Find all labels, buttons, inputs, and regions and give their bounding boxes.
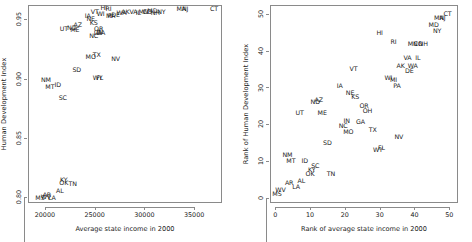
data-point-label: MT [45, 84, 54, 90]
data-point-label: MT [286, 158, 295, 164]
data-point-label: AL [56, 187, 64, 193]
data-point-label: SD [72, 67, 81, 73]
y-axis-label-right: Rank of Human Development Index [242, 5, 250, 203]
y-tick-mark [24, 19, 27, 20]
data-point-label: KS [351, 94, 359, 100]
data-point-label: FL [96, 75, 103, 81]
x-axis-label-left: Average state income in 2000 [28, 225, 222, 233]
data-point-label: TX [93, 52, 101, 58]
panel-rank-vs-rank: Rank of Human Development Index Rank of … [236, 0, 472, 242]
data-point-label: OK [306, 171, 315, 177]
x-axis-line [45, 207, 194, 208]
data-point-label: VT [350, 66, 358, 72]
data-point-label: ID [302, 158, 309, 164]
data-point-label: TN [327, 171, 335, 177]
data-point-label: LA [292, 183, 300, 189]
data-point-label: MA [176, 6, 186, 12]
y-tick-mark [266, 87, 269, 88]
plot-frame-left [28, 5, 222, 203]
x-tick-label: 25000 [75, 211, 115, 219]
x-axis-line [275, 207, 449, 208]
x-tick-label: 20000 [25, 211, 65, 219]
data-point-label: CT [210, 6, 218, 12]
data-point-label: ND [311, 99, 320, 105]
y-tick-label: 0.95 [15, 6, 23, 32]
data-point-label: NV [111, 56, 120, 62]
data-point-label: DE [405, 68, 414, 74]
y-tick-mark [266, 14, 269, 15]
y-tick-label: 50 [257, 1, 265, 27]
data-point-label: MO [343, 128, 353, 134]
x-tick-mark [194, 207, 195, 210]
data-point-label: ME [318, 110, 327, 116]
y-tick-label: 30 [257, 75, 265, 101]
data-point-label: NH [419, 40, 428, 46]
y-tick-mark [266, 51, 269, 52]
data-point-label: SC [59, 95, 67, 101]
data-point-label: GA [356, 119, 365, 125]
x-tick-label: 50 [429, 211, 469, 219]
panel-income-vs-hdi: Human Development Index Average state in… [0, 0, 236, 242]
data-point-label: HI [376, 29, 382, 35]
data-point-label: ID [55, 82, 62, 88]
data-point-label: AK [396, 62, 404, 68]
y-tick-mark [24, 79, 27, 80]
data-point-label: VA [129, 8, 137, 14]
x-tick-label: 30000 [124, 211, 164, 219]
data-point-label: TX [369, 127, 377, 133]
data-point-label: UT [60, 26, 68, 32]
data-point-label: NJ [439, 15, 445, 21]
data-point-label: UT [295, 110, 303, 116]
data-point-label: TN [69, 181, 77, 187]
data-point-label: VT [91, 8, 99, 14]
x-axis-label-right: Rank of average state income in 2000 [270, 225, 458, 233]
data-point-label: IA [337, 83, 343, 89]
data-point-label: LA [48, 195, 56, 201]
y-tick-label: 20 [257, 111, 265, 137]
data-point-label: WY [373, 147, 383, 153]
data-point-label: ME [70, 27, 79, 33]
data-point-label: MS [35, 195, 44, 201]
data-point-label: MI [106, 13, 113, 19]
y-tick-label: 0.80 [15, 184, 23, 210]
y-tick-label: 40 [257, 38, 265, 64]
data-point-label: PA [393, 83, 401, 89]
y-tick-label: 0.90 [15, 66, 23, 92]
y-tick-label: 10 [257, 148, 265, 174]
y-tick-label: 0 [257, 185, 265, 211]
y-axis-label-left: Human Development Index [0, 5, 8, 203]
figure-two-panel-scatter: Human Development Index Average state in… [0, 0, 472, 242]
y-tick-mark [266, 161, 269, 162]
y-tick-label: 0.85 [15, 125, 23, 151]
y-axis-line [24, 197, 25, 242]
data-point-label: NC [89, 33, 98, 39]
data-point-label: NV [394, 134, 403, 140]
data-point-label: OH [363, 108, 373, 114]
data-point-label: RI [391, 39, 397, 45]
data-point-label: NY [433, 28, 441, 34]
y-tick-mark [266, 124, 269, 125]
data-point-label: MS [272, 191, 281, 197]
data-point-label: SD [323, 139, 332, 145]
x-tick-label: 35000 [174, 211, 214, 219]
y-axis-line [266, 198, 267, 242]
y-tick-mark [24, 138, 27, 139]
